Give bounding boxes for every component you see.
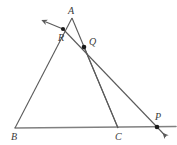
segment-bc-baseline: [15, 127, 176, 129]
segment-transversal-rp: [63, 29, 157, 127]
geometry-figure-container: A B C R Q P: [0, 0, 177, 145]
point-label-c: C: [115, 132, 122, 142]
point-q-dot: [82, 45, 87, 50]
point-label-q: Q: [89, 37, 96, 47]
point-r-dot: [61, 27, 65, 31]
ray-transversal-upper-left: [46, 22, 63, 29]
point-label-b: B: [11, 132, 17, 142]
geometry-figure: [0, 0, 177, 145]
point-label-r: R: [58, 33, 64, 43]
point-p-dot: [155, 125, 160, 130]
point-label-a: A: [68, 6, 74, 16]
point-label-p: P: [155, 112, 161, 122]
segment-qc: [84, 47, 118, 128]
